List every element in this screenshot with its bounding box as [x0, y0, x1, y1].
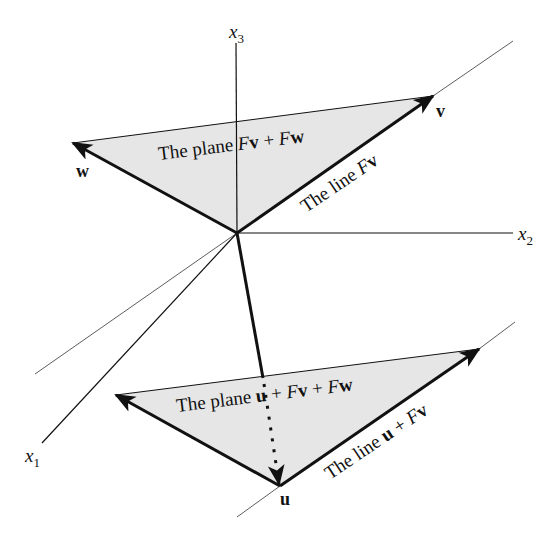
vector-u-label: u	[280, 489, 290, 509]
vector-u-solid	[237, 233, 263, 378]
x3-axis-label: x3	[228, 21, 244, 46]
line-u-fv-extension-lower	[237, 486, 280, 517]
line-u-fv-extension-upper	[479, 322, 515, 349]
vector-w-label: w	[76, 161, 89, 181]
x2-axis-label: x2	[517, 223, 533, 248]
auxiliary-line	[35, 233, 237, 374]
vector-v-label: v	[436, 101, 445, 121]
x1-axis-label: x1	[24, 445, 40, 470]
line-fv-extension	[433, 41, 513, 96]
subspace-diagram: x3 x2 x1 v w u The plane Fv + Fw The lin…	[0, 0, 557, 538]
